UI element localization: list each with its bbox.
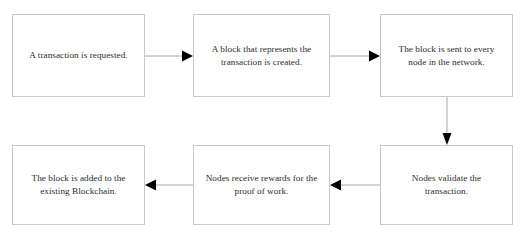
flowchart-canvas: A transaction is requested. A block that…	[0, 0, 523, 242]
flowchart-node-label: Nodes receive rewards for the proof of w…	[203, 172, 320, 197]
flowchart-node-step-4[interactable]: Nodes validate the transaction.	[380, 145, 513, 225]
flowchart-node-step-5[interactable]: Nodes receive rewards for the proof of w…	[193, 145, 330, 225]
flowchart-node-label: The block is sent to every node in the n…	[390, 43, 503, 68]
flowchart-arrow-step-3-to-step-4	[440, 97, 454, 145]
flowchart-node-label: Nodes validate the transaction.	[390, 172, 503, 197]
flowchart-node-label: The block is added to the existing Block…	[22, 172, 135, 197]
flowchart-node-label: A block that represents the transaction …	[203, 43, 320, 68]
flowchart-arrow-step-1-to-step-2	[145, 49, 193, 63]
flowchart-node-label: A transaction is requested.	[29, 49, 127, 62]
flowchart-arrow-step-5-to-step-6	[145, 178, 193, 192]
flowchart-node-step-1[interactable]: A transaction is requested.	[12, 14, 145, 97]
flowchart-node-step-3[interactable]: The block is sent to every node in the n…	[380, 14, 513, 97]
flowchart-arrow-step-2-to-step-3	[330, 49, 380, 63]
flowchart-node-step-6[interactable]: The block is added to the existing Block…	[12, 145, 145, 225]
flowchart-node-step-2[interactable]: A block that represents the transaction …	[193, 14, 330, 97]
flowchart-arrow-step-4-to-step-5	[330, 178, 380, 192]
